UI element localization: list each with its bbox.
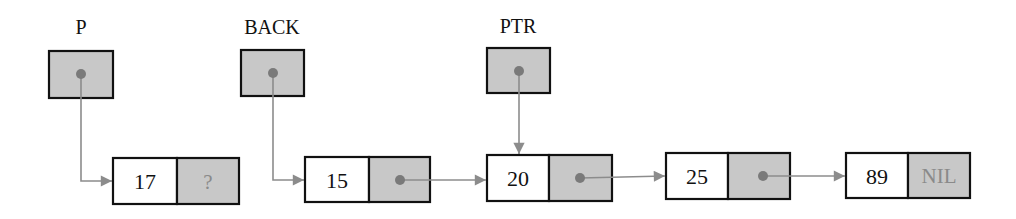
linked-list-diagram: P BACK PTR 17 ? 15 20 25 89 NIL [0, 0, 1016, 219]
node-value: 17 [134, 169, 156, 194]
pointer-label-ptr: PTR [500, 15, 537, 37]
node-next-unknown: ? [203, 170, 212, 194]
node-value: 20 [507, 166, 529, 191]
next-dot-icon [575, 173, 585, 183]
pointer-dot-icon [76, 69, 86, 79]
pointer-dot-icon [514, 66, 524, 76]
node-value: 25 [686, 164, 708, 189]
node-value: 89 [866, 164, 888, 189]
node-next-nil: NIL [922, 164, 957, 188]
list-node: 89 NIL [846, 153, 970, 198]
list-node: 17 ? [113, 158, 239, 204]
node-value: 15 [326, 168, 348, 193]
pointer-label-p: P [75, 16, 86, 38]
pointer-dot-icon [268, 68, 278, 78]
next-dot-icon [395, 175, 405, 185]
next-dot-icon [758, 171, 768, 181]
pointer-label-back: BACK [244, 16, 300, 38]
